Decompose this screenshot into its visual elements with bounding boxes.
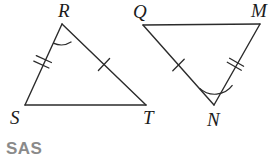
vertex-label-r: R: [57, 0, 70, 21]
vertex-label-q: Q: [133, 1, 147, 22]
geometry-figure: R S T Q M N SAS: [0, 0, 275, 165]
side-sr: [25, 24, 62, 105]
vertex-label-t: T: [143, 107, 155, 128]
triangle-qmn-outline: [143, 24, 260, 105]
side-qm: [143, 24, 260, 25]
angle-arc-n: [200, 85, 233, 94]
tick-mark: [34, 61, 49, 68]
tick-mark: [36, 56, 51, 63]
triangle-rst-outline: [25, 24, 146, 105]
vertex-label-m: M: [250, 0, 268, 21]
vertex-label-s: S: [10, 107, 20, 128]
vertex-label-n: N: [206, 109, 221, 130]
angle-arc-r: [53, 42, 71, 45]
congruence-postulate-label: SAS: [6, 140, 42, 157]
